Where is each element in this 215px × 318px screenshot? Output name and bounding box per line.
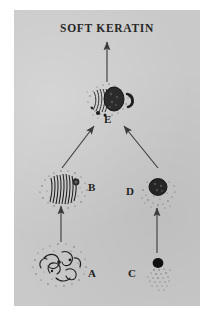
- arrow-d-to-e: [124, 126, 158, 168]
- label-e: E: [104, 114, 111, 125]
- dense-granule-with-halo-icon: [134, 168, 186, 212]
- label-d: D: [126, 186, 134, 197]
- cell-c: [140, 252, 182, 294]
- cell-d: [134, 168, 186, 212]
- label-c: C: [128, 268, 136, 279]
- arrow-b-to-e: [62, 126, 94, 168]
- figure-panel: SOFT KERATIN: [14, 10, 200, 306]
- label-b: B: [88, 182, 95, 193]
- label-a: A: [88, 268, 96, 279]
- cell-with-curly-fibrils-icon: [28, 238, 98, 292]
- cell-a: [28, 238, 98, 292]
- small-dense-granule-icon: [140, 252, 182, 294]
